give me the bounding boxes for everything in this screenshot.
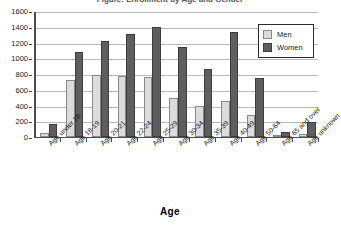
y-tick-mark xyxy=(29,91,32,92)
bar-men xyxy=(273,135,282,137)
bar-women xyxy=(152,27,161,137)
y-tick-label: 1000 xyxy=(11,55,28,63)
chart-legend: Men Women xyxy=(258,24,314,58)
legend-item-men: Men xyxy=(263,28,309,41)
y-tick-mark xyxy=(29,122,32,123)
x-axis-title: Age xyxy=(0,206,340,217)
legend-label-women: Women xyxy=(277,43,303,52)
bar-group xyxy=(139,12,165,137)
y-tick-label: 600 xyxy=(15,87,28,95)
y-tick-mark xyxy=(29,44,32,45)
bar-group xyxy=(165,12,191,137)
bar-group xyxy=(217,12,243,137)
y-axis: 02004006008001000120014001600 xyxy=(0,12,32,138)
bar-group xyxy=(88,12,114,137)
bar-group xyxy=(191,12,217,137)
y-tick-label: 800 xyxy=(15,71,28,79)
bar-women xyxy=(126,34,135,137)
y-tick-label: 0 xyxy=(24,134,28,142)
y-tick-mark xyxy=(29,59,32,60)
bar-women xyxy=(230,32,239,137)
x-axis-category-labels: Age under 18Age 18-19Age 20-21Age 22-24A… xyxy=(34,142,318,204)
y-tick-mark xyxy=(29,138,32,139)
y-tick-mark xyxy=(29,75,32,76)
chart-title: Figure: Enrollment by Age and Gender xyxy=(0,0,340,7)
y-tick-label: 1600 xyxy=(11,8,28,16)
bar-men xyxy=(299,134,308,137)
legend-label-men: Men xyxy=(277,30,292,39)
y-tick-label: 200 xyxy=(15,118,28,126)
legend-item-women: Women xyxy=(263,41,309,54)
bar-women xyxy=(255,78,264,137)
y-tick-label: 400 xyxy=(15,103,28,111)
bar-women xyxy=(178,47,187,137)
y-tick-label: 1400 xyxy=(11,24,28,32)
bar-men xyxy=(40,133,49,137)
bar-group xyxy=(113,12,139,137)
y-tick-label: 1200 xyxy=(11,40,28,48)
bar-women xyxy=(101,41,110,137)
bar-women xyxy=(204,69,213,138)
chart-title-text: Figure: Enrollment by Age and Gender xyxy=(97,0,243,4)
y-tick-mark xyxy=(29,107,32,108)
x-axis-title-text: Age xyxy=(160,206,180,217)
y-tick-mark xyxy=(29,28,32,29)
bar-group xyxy=(36,12,62,137)
legend-swatch-women-icon xyxy=(263,43,272,52)
legend-swatch-men-icon xyxy=(263,30,272,39)
y-tick-mark xyxy=(29,12,32,13)
